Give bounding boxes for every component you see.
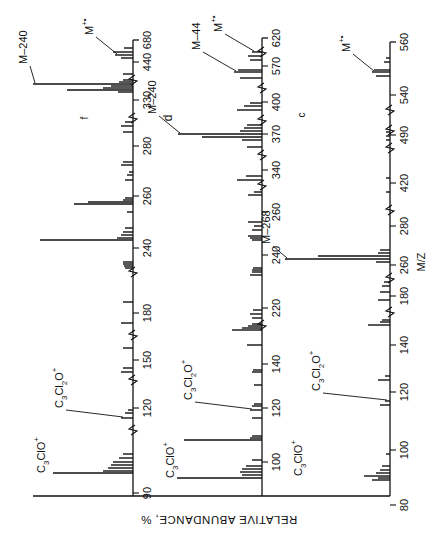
annotation-leader-line <box>353 54 374 71</box>
mz-tick-label: 260 <box>398 256 410 274</box>
axis-break-icon <box>386 205 394 215</box>
mz-tick-label: 80 <box>398 499 410 511</box>
axis-break-icon <box>258 83 266 93</box>
annotation-leader-line <box>30 66 35 83</box>
axis-break-icon <box>386 307 394 317</box>
annotation-leader-line <box>96 37 117 54</box>
mz-tick-label: 440 <box>141 53 153 71</box>
spectrum-panel-c: 80100120140180260280420490540560C3ClO+C3… <box>260 33 410 511</box>
annotation-leader-line <box>203 52 236 71</box>
mz-axis-title: M/Z <box>415 252 427 271</box>
mz-tick-label: 150 <box>141 351 153 369</box>
peak-annotation: M–44 <box>190 22 202 50</box>
axis-break-icon <box>386 143 394 153</box>
mz-tick-label: 370 <box>270 125 282 143</box>
peak-annotation: M–268 <box>260 210 272 244</box>
mz-tick-label: 620 <box>270 29 282 47</box>
mz-tick-label: 120 <box>270 399 282 417</box>
axis-break-icon <box>258 180 266 190</box>
axis-break-icon <box>258 150 266 160</box>
peak-annotation: C3ClO+ <box>289 440 308 476</box>
peak-annotation: M–240 <box>146 80 158 114</box>
panel-label-c: c <box>296 113 307 118</box>
mz-tick-label: 420 <box>398 174 410 192</box>
axis-break-icon <box>129 330 137 340</box>
mz-tick-label: 120 <box>141 399 153 417</box>
abundance-axis-title: RELATIVE ABUNDANCE, % <box>141 514 298 526</box>
mz-tick-label: 680 <box>141 31 153 49</box>
spectra-plot: 90120150180240260280330440680C3ClO+C3Cl2… <box>0 0 443 535</box>
axis-break-icon <box>258 115 266 125</box>
mz-tick-label: 400 <box>270 93 282 111</box>
peak-annotation: C3Cl2O+ <box>50 367 69 408</box>
mz-tick-label: 280 <box>398 217 410 235</box>
axis-break-icon <box>386 105 394 115</box>
mz-tick-label: 240 <box>141 239 153 257</box>
annotation-leader-line <box>225 34 254 51</box>
axis-break-icon <box>129 375 137 385</box>
spectrum-panel-f: 90120150180240260280330440680C3ClO+C3Cl2… <box>17 18 153 499</box>
annotation-leader-line <box>195 402 252 409</box>
mz-tick-label: 140 <box>398 336 410 354</box>
annotation-leader-line <box>323 393 387 400</box>
mz-tick-label: 540 <box>398 86 410 104</box>
annotation-leader-line <box>66 410 123 417</box>
peak-annotation: C3Cl2O+ <box>307 350 326 391</box>
mz-tick-label: 120 <box>398 383 410 401</box>
mz-tick-label: 560 <box>398 33 410 51</box>
mz-tick-label: 280 <box>141 137 153 155</box>
mz-tick-label: 100 <box>270 453 282 471</box>
peak-annotation: C3ClO+ <box>161 442 180 478</box>
mz-tick-label: 490 <box>398 126 410 144</box>
mz-tick-label: 220 <box>270 299 282 317</box>
panel-label-f: f <box>79 116 90 119</box>
panels-group: 90120150180240260280330440680C3ClO+C3Cl2… <box>17 15 410 511</box>
mz-tick-label: 140 <box>270 355 282 373</box>
mz-tick-label: 90 <box>141 487 153 499</box>
peak-annotation: C3ClO+ <box>32 437 51 473</box>
peak-annotation: M+• <box>80 18 95 35</box>
mz-tick-label: 570 <box>270 57 282 75</box>
spectrum-panel-d: 100120140220240260340370400570620C3ClO+C… <box>146 15 282 496</box>
axis-break-icon <box>129 425 137 435</box>
mz-tick-label: 260 <box>141 187 153 205</box>
peak-annotation: C3Cl2O+ <box>179 359 198 400</box>
panel-label-d: d <box>161 115 175 122</box>
peak-annotation: M+• <box>337 35 352 52</box>
mz-tick-label: 100 <box>398 441 410 459</box>
axis-break-icon <box>386 125 394 135</box>
peak-annotation: M–240 <box>17 30 29 64</box>
mz-tick-label: 340 <box>270 161 282 179</box>
mass-spectra-figure: 90120150180240260280330440680C3ClO+C3Cl2… <box>0 0 443 535</box>
mz-tick-label: 180 <box>141 304 153 322</box>
mz-tick-label: 180 <box>398 287 410 305</box>
peak-annotation: M+• <box>209 15 224 32</box>
